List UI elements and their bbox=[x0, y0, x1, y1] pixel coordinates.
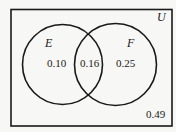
e-only-value: 0.10 bbox=[47, 57, 67, 69]
intersection-value: 0.16 bbox=[80, 57, 100, 69]
set-e-label: E bbox=[44, 36, 53, 50]
f-only-value: 0.25 bbox=[116, 57, 136, 69]
universe-label: U bbox=[157, 10, 167, 24]
venn-diagram: U E F 0.10 0.16 0.25 0.49 bbox=[0, 0, 176, 132]
outside-value: 0.49 bbox=[146, 108, 166, 120]
set-f-label: F bbox=[126, 36, 135, 50]
